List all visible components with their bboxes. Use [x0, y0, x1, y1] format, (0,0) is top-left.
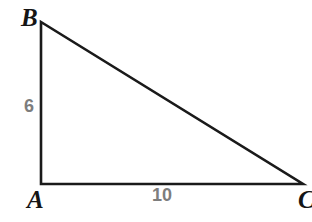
geometry-figure: B A C 6 10	[0, 0, 312, 222]
triangle-outline	[41, 22, 303, 184]
vertex-label-c: C	[298, 187, 312, 212]
side-length-label-ab: 6	[24, 97, 34, 115]
side-length-label-ac: 10	[152, 186, 172, 204]
vertex-label-a: A	[27, 187, 44, 212]
vertex-label-b: B	[21, 5, 38, 30]
